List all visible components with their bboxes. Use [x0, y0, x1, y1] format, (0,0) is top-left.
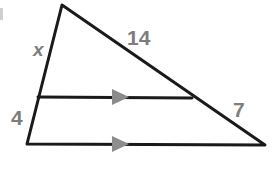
arrow-right-icon-midsegment — [112, 89, 129, 105]
geometry-figure: x 14 4 7 — [0, 0, 277, 172]
label-side-14: 14 — [127, 27, 150, 48]
arrow-right-icon-baseline — [112, 136, 129, 152]
label-side-7: 7 — [233, 99, 245, 120]
label-side-4: 4 — [11, 107, 23, 128]
label-side-x: x — [33, 40, 44, 59]
